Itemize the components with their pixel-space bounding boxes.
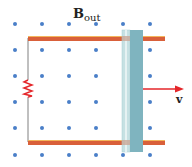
moving-bar-diagram: [0, 0, 192, 167]
bottom-rail: [28, 140, 165, 145]
resistor-icon: [24, 80, 32, 97]
velocity-label: v: [176, 93, 182, 106]
field-label-subscript: out: [84, 12, 100, 23]
conducting-bar: [122, 30, 143, 152]
field-label: Bout: [73, 6, 100, 23]
top-rail: [28, 36, 165, 41]
field-label-main: B: [73, 6, 84, 21]
velocity-arrow-icon: [143, 86, 184, 93]
